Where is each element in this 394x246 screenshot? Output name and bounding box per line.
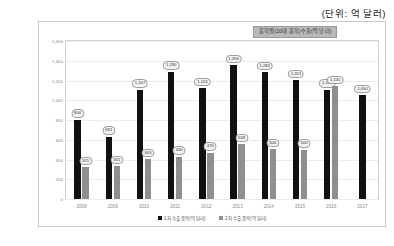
bar[interactable]: [137, 90, 144, 199]
bar-value-label: 631: [102, 126, 115, 134]
bar[interactable]: [207, 153, 214, 199]
bar-group: 631331: [97, 41, 128, 199]
unit-note: (단위: 억 달러): [322, 6, 386, 20]
bar-value-label: 470: [204, 142, 217, 150]
plot-area: 02004006008001,0001,2001,4001,600 804321…: [65, 40, 379, 200]
legend-swatch-icon: [219, 216, 223, 220]
bar[interactable]: [145, 159, 152, 199]
x-axis-tick-label: 2011: [170, 204, 180, 209]
bar[interactable]: [270, 149, 277, 199]
y-axis-tick-label: 800: [56, 118, 63, 123]
bar-group: 1,1091,141: [316, 41, 347, 199]
bar[interactable]: [332, 86, 339, 199]
y-axis-tick-label: 200: [56, 177, 63, 182]
bar-group: 1,050: [347, 41, 378, 199]
chart-legend: 1차 수출 품목(억 달러)2차 수출 품목(억 달러): [39, 215, 385, 221]
y-axis-tick-label: 0: [61, 197, 63, 202]
bar-group: 1,290430: [160, 41, 191, 199]
y-axis-tick-label: 400: [56, 157, 63, 162]
bar-group: 1,356558: [222, 41, 253, 199]
bar[interactable]: [324, 90, 331, 200]
bar-value-label: 558: [235, 134, 248, 142]
bar-value-label: 405: [141, 149, 154, 157]
bar-group: 1,282506: [253, 41, 284, 199]
y-axis-tick-label: 600: [56, 137, 63, 142]
y-axis-tick-label: 1,000: [52, 98, 63, 103]
y-axis-tick-label: 1,200: [52, 78, 63, 83]
x-axis-tick-label: 2008: [76, 204, 86, 209]
legend-swatch-icon: [158, 216, 162, 220]
x-axis-tick-label: 2009: [108, 204, 118, 209]
bar[interactable]: [238, 144, 245, 199]
bar-value-label: 430: [173, 146, 186, 154]
x-axis-tick-label: 2017: [357, 204, 367, 209]
bar-group: 1,201500: [284, 41, 315, 199]
y-axis-tick-label: 1,600: [52, 39, 63, 44]
bar-value-label: 1,141: [327, 76, 343, 84]
legend-label: 2차 수출 품목(억 달러): [225, 215, 266, 221]
bar[interactable]: [230, 65, 237, 199]
legend-item[interactable]: 1차 수출 품목(억 달러): [158, 215, 206, 221]
chart-frame: 품목별(10대 품목)수출(억 달러) 02004006008001,0001,…: [38, 21, 386, 227]
bar[interactable]: [359, 95, 366, 199]
y-axis-tick-label: 1,400: [52, 58, 63, 63]
bar-group: 1,107405: [128, 41, 159, 199]
x-axis-tick-label: 2010: [139, 204, 149, 209]
x-axis-tick-label: 2015: [295, 204, 305, 209]
bar[interactable]: [106, 137, 113, 199]
bar-value-label: 804: [71, 109, 84, 117]
legend-item[interactable]: 2차 수출 품목(억 달러): [219, 215, 267, 221]
bar-value-label: 1,050: [354, 85, 370, 93]
bar[interactable]: [168, 72, 175, 199]
chart-title: 품목별(10대 품목)수출(억 달러): [253, 26, 337, 38]
bar[interactable]: [82, 167, 89, 199]
x-axis-tick-label: 2013: [232, 204, 242, 209]
bar-value-label: 1,356: [225, 55, 241, 63]
x-axis-tick-label: 2012: [201, 204, 211, 209]
bar-value-label: 1,201: [288, 70, 304, 78]
bar-value-label: 1,124: [194, 78, 210, 86]
bar-value-label: 506: [266, 139, 279, 147]
gridline: [66, 199, 378, 200]
bar-value-label: 321: [79, 157, 92, 165]
bar-group: 804321: [66, 41, 97, 199]
bar[interactable]: [262, 72, 269, 199]
bar[interactable]: [301, 150, 308, 199]
bar-value-label: 1,290: [163, 61, 179, 69]
bar[interactable]: [114, 166, 121, 199]
bar-value-label: 1,282: [257, 62, 273, 70]
bar-value-label: 500: [297, 139, 310, 147]
bar[interactable]: [176, 157, 183, 199]
x-axis-tick-label: 2014: [264, 204, 274, 209]
bar-group: 1,124470: [191, 41, 222, 199]
x-axis-tick-label: 2016: [326, 204, 336, 209]
bar-value-label: 1,107: [132, 79, 148, 87]
bars-layer: 8043216313311,1074051,2904301,1244701,35…: [66, 41, 378, 199]
legend-label: 1차 수출 품목(억 달러): [164, 215, 205, 221]
bar-value-label: 331: [110, 156, 123, 164]
